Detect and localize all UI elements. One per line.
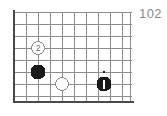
grid-horizontal-lines	[14, 12, 132, 96]
stone-body	[31, 65, 45, 79]
go-board-figure: 2	[0, 0, 137, 116]
diagram-root: 2 102	[0, 0, 167, 116]
grid-vertical-lines	[26, 12, 130, 102]
diagram-number-label: 102	[139, 7, 162, 21]
star-point-dot	[103, 71, 106, 74]
stone-black-upper[interactable]	[31, 65, 45, 79]
star-points	[103, 71, 106, 74]
stone-black-last-move[interactable]	[97, 77, 111, 91]
go-board-svg: 2	[0, 0, 137, 116]
stone-body	[56, 78, 69, 91]
stone-move-number: 2	[36, 43, 41, 53]
stone-white-lower[interactable]	[56, 78, 69, 91]
stone-white-numbered-2[interactable]: 2	[32, 42, 45, 55]
